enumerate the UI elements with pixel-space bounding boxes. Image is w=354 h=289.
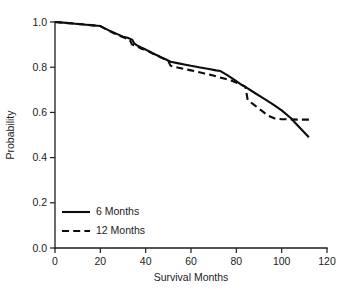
y-tick-label: 1.0 [32, 16, 47, 28]
x-axis-group: 020406080100120 Survival Months [52, 248, 336, 283]
series-group [55, 22, 311, 137]
survival-curve-figure: 0.00.20.40.60.81.0 Probability 020406080… [0, 0, 354, 289]
x-tick-label: 20 [94, 255, 106, 267]
kaplan-meier-plot: 0.00.20.40.60.81.0 Probability 020406080… [0, 0, 354, 289]
x-tick-label: 40 [140, 255, 152, 267]
x-tick-label: 120 [318, 255, 336, 267]
y-tick-label: 0.8 [32, 61, 47, 73]
legend-label-12-months: 12 Months [96, 224, 145, 236]
series-line-6-months [55, 22, 309, 137]
x-tick-label: 0 [52, 255, 58, 267]
x-tick-label: 60 [185, 255, 197, 267]
y-tick-label: 0.2 [32, 196, 47, 208]
y-tick-label: 0.4 [32, 151, 47, 163]
x-tick-label: 80 [230, 255, 242, 267]
x-axis-label: Survival Months [154, 271, 229, 283]
y-axis-group: 0.00.20.40.60.81.0 Probability [4, 16, 55, 254]
x-axis-ticks: 020406080100120 [52, 248, 336, 267]
y-tick-label: 0.6 [32, 106, 47, 118]
x-tick-label: 100 [273, 255, 291, 267]
legend-label-6-months: 6 Months [96, 205, 139, 217]
y-tick-label: 0.0 [32, 242, 47, 254]
y-axis-label: Probability [4, 110, 16, 160]
y-axis-ticks: 0.00.20.40.60.81.0 [32, 16, 55, 254]
chart-legend: 6 Months12 Months [62, 205, 145, 236]
